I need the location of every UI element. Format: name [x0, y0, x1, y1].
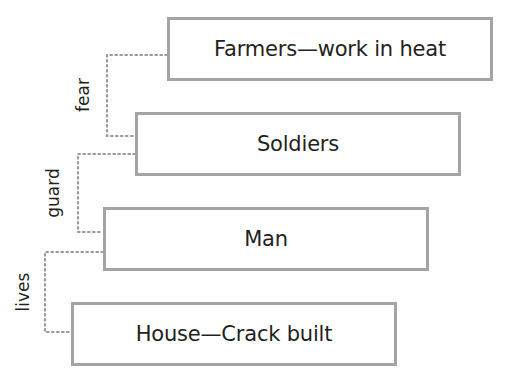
edge-label-fear: fear: [73, 65, 93, 125]
node-label: House—Crack built: [136, 322, 333, 346]
node-soldiers: Soldiers: [135, 112, 461, 176]
node-label: Man: [244, 227, 288, 251]
node-man: Man: [103, 207, 429, 271]
node-label: Soldiers: [257, 132, 339, 156]
node-label: Farmers—work in heat: [214, 37, 446, 61]
edge-label-lives: lives: [13, 262, 33, 322]
node-house: House—Crack built: [71, 302, 397, 366]
node-farmers: Farmers—work in heat: [167, 17, 493, 81]
edge-label-guard: guard: [43, 163, 63, 223]
